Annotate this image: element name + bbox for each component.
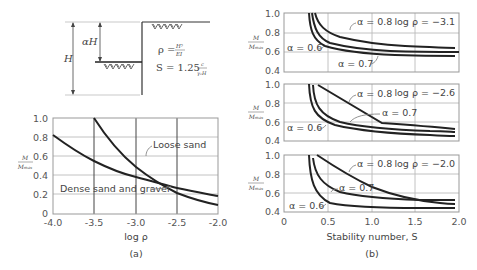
- label-alpha-0.6: α = 0.6: [287, 42, 322, 53]
- alpha-h-dimension-arrow: [98, 22, 102, 62]
- annotation-log-rho: log ρ = −2.6: [394, 87, 455, 98]
- svg-text:2.0: 2.0: [451, 216, 466, 227]
- svg-text:M: M: [252, 175, 260, 182]
- svg-text:1.0: 1.0: [33, 113, 48, 124]
- rho-formula-denominator: EI: [175, 51, 183, 57]
- label-dense-sand-gravel: Dense sand and gravel: [60, 183, 170, 194]
- chart-b2-ylabel: M Mmax: [248, 104, 264, 120]
- svg-text:0.8: 0.8: [33, 132, 48, 143]
- svg-text:-2.0: -2.0: [209, 217, 228, 228]
- svg-text:0.6: 0.6: [265, 46, 280, 57]
- annotation-log-rho: log ρ = −3.1: [394, 16, 455, 27]
- svg-text:0.6: 0.6: [33, 151, 48, 162]
- label-alpha-0.7: α = 0.7: [382, 107, 417, 118]
- svg-text:Mmax: Mmax: [248, 43, 264, 50]
- svg-text:M: M: [252, 104, 260, 111]
- label-alpha-0.6: α = 0.6: [287, 122, 322, 133]
- svg-text:0.8: 0.8: [265, 27, 280, 38]
- soil-hatch-icon: [152, 24, 182, 29]
- svg-text:M: M: [252, 34, 260, 41]
- svg-text:0.4: 0.4: [265, 206, 280, 217]
- rho-formula-numerator: H⁵: [175, 43, 184, 49]
- label-alpha-0.7: α = 0.7: [339, 182, 374, 193]
- retaining-wall-diagram: αH H ρ = H⁵ EI S = 1.25 c γₑH: [63, 22, 210, 95]
- chart-b2: 1.0 0.8 0.6 0.4 M Mmax α = 0.8 α = 0.7 α…: [248, 79, 459, 146]
- figure: αH H ρ = H⁵ EI S = 1.25 c γₑH 1.0 0.8 0.…: [0, 0, 477, 270]
- svg-text:0.4: 0.4: [33, 170, 48, 181]
- label-loose-sand: Loose sand: [153, 139, 206, 150]
- svg-text:-2.5: -2.5: [168, 217, 187, 228]
- svg-text:-3.0: -3.0: [127, 217, 146, 228]
- label-alpha-0.7: α = 0.7: [338, 58, 373, 69]
- svg-text:-3.5: -3.5: [85, 217, 104, 228]
- label-alpha-0.6: α = 0.6: [289, 200, 324, 211]
- svg-text:0: 0: [281, 216, 287, 227]
- label-alpha-0.8: α = 0.8: [357, 88, 392, 99]
- chart-b-caption: (b): [365, 248, 378, 259]
- svg-text:0.8: 0.8: [265, 98, 280, 109]
- chart-a-ylabel: M Mmax: [17, 154, 33, 170]
- rho-formula-lhs: ρ =: [158, 44, 175, 55]
- svg-text:Mmax: Mmax: [248, 184, 264, 191]
- chart-b1-ylabel: M Mmax: [248, 34, 264, 50]
- svg-text:Mmax: Mmax: [248, 113, 264, 120]
- svg-text:0.4: 0.4: [265, 135, 280, 146]
- svg-text:-4.0: -4.0: [44, 217, 63, 228]
- svg-text:0.5: 0.5: [320, 216, 335, 227]
- svg-text:0.6: 0.6: [265, 117, 280, 128]
- svg-text:1.0: 1.0: [265, 8, 280, 19]
- svg-text:0.2: 0.2: [33, 189, 48, 200]
- label-alpha-0.8: α = 0.8: [357, 16, 392, 27]
- s-formula-numerator: c: [201, 61, 204, 67]
- soil-hatch-icon: [104, 64, 134, 69]
- annotation-log-rho: log ρ = −2.0: [394, 158, 455, 169]
- chart-b3: 1.0 0.8 0.6 0.4 M Mmax α = 0.8 α = 0.7 α…: [248, 150, 467, 259]
- s-formula-lhs: S = 1.25: [156, 62, 200, 73]
- h-label: H: [63, 53, 73, 64]
- svg-text:M: M: [21, 154, 29, 161]
- svg-text:1.0: 1.0: [364, 216, 379, 227]
- svg-text:0.6: 0.6: [265, 188, 280, 199]
- chart-b1: 1.0 0.8 0.6 0.4 M Mmax α = 0.8 α = 0.7 α…: [248, 8, 459, 76]
- label-alpha-0.8: α = 0.8: [357, 158, 392, 169]
- svg-text:1.0: 1.0: [265, 79, 280, 90]
- chart-a-xlabel: log ρ: [124, 231, 148, 242]
- svg-text:Mmax: Mmax: [17, 163, 33, 170]
- chart-b-xlabel: Stability number, S: [326, 231, 417, 242]
- svg-text:1.5: 1.5: [407, 216, 422, 227]
- svg-text:0.4: 0.4: [265, 65, 280, 76]
- alpha-h-label: αH: [82, 36, 98, 47]
- svg-text:1.0: 1.0: [265, 150, 280, 161]
- chart-b3-ylabel: M Mmax: [248, 175, 264, 191]
- chart-a: 1.0 0.8 0.6 0.4 0.2 0 -4.0 -3.5 -3.0 -2.…: [17, 113, 228, 259]
- chart-a-caption: (a): [129, 248, 142, 259]
- s-formula-denominator: γₑH: [197, 70, 207, 77]
- svg-text:0.8: 0.8: [265, 169, 280, 180]
